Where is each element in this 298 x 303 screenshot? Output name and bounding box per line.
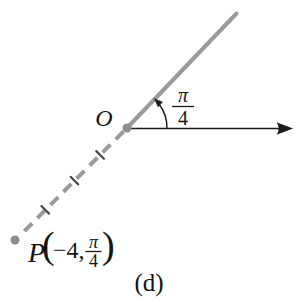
origin-dot — [123, 124, 132, 133]
angle-denominator-label: 4 — [178, 107, 188, 129]
origin-label: O — [95, 105, 112, 131]
point-fraction-denominator: 4 — [89, 251, 98, 271]
axis-arrowhead-icon — [277, 122, 294, 134]
point-p-dot — [11, 236, 20, 245]
point-close-paren: ) — [102, 224, 115, 267]
angle-numerator-label: π — [178, 84, 189, 106]
arc-arrowhead-icon — [154, 98, 163, 107]
point-fraction-numerator: π — [89, 232, 99, 252]
diagram-svg: O π 4 P ( −4, π 4 ) (d) — [0, 0, 298, 303]
point-radius-label: −4, — [53, 237, 85, 263]
figure-caption: (d) — [134, 269, 163, 297]
dashed-extension-ray — [20, 132, 124, 236]
angle-arc — [159, 105, 167, 129]
polar-coordinate-diagram: O π 4 P ( −4, π 4 ) (d) — [0, 0, 298, 303]
